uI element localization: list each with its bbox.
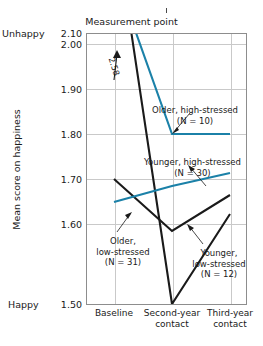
annotation-younger-low-stressed: Younger, low-stressed (N = 12) — [188, 248, 250, 280]
x-tick-second-year-line1: Second-year — [140, 308, 204, 319]
x-tick-third-year-line1: Third-year — [200, 308, 260, 319]
annotation-younger-high-stressed: Younger, high-stressed (N = 30) — [144, 157, 241, 178]
annotation-younger-low-stressed-n: (N = 12) — [188, 269, 250, 280]
x-tick-baseline: Baseline — [84, 308, 144, 319]
leader-younger-low-stressed — [187, 224, 203, 244]
annotation-older-high-stressed: Older, high-stressed (N = 10) — [152, 105, 238, 126]
annotation-younger-low-stressed-name2: low-stressed — [188, 259, 250, 270]
happiness-line-chart: Measurement point Unhappy Happy Mean sco… — [0, 0, 263, 346]
annotation-older-low-stressed-n: (N = 31) — [92, 257, 154, 268]
annotation-older-high-stressed-name: Older, high-stressed — [152, 105, 238, 116]
x-tick-third-year-line2: contact — [200, 319, 260, 330]
annotation-younger-low-stressed-name1: Younger, — [188, 248, 250, 259]
annotation-younger-high-stressed-n: (N = 30) — [144, 168, 241, 179]
annotation-younger-high-stressed-name: Younger, high-stressed — [144, 157, 241, 168]
annotation-older-low-stressed-name1: Older, — [92, 236, 154, 247]
x-tick-second-year: Second-year contact — [140, 308, 204, 330]
annotation-older-low-stressed: Older, low-stressed (N = 31) — [92, 236, 154, 268]
x-tick-baseline-line1: Baseline — [84, 308, 144, 319]
x-tick-third-year: Third-year contact — [200, 308, 260, 330]
annotation-older-low-stressed-name2: low-stressed — [92, 247, 154, 258]
x-tick-second-year-line2: contact — [140, 319, 204, 330]
leader-older-low-stressed — [117, 212, 132, 232]
annotation-older-high-stressed-n: (N = 10) — [152, 116, 238, 127]
